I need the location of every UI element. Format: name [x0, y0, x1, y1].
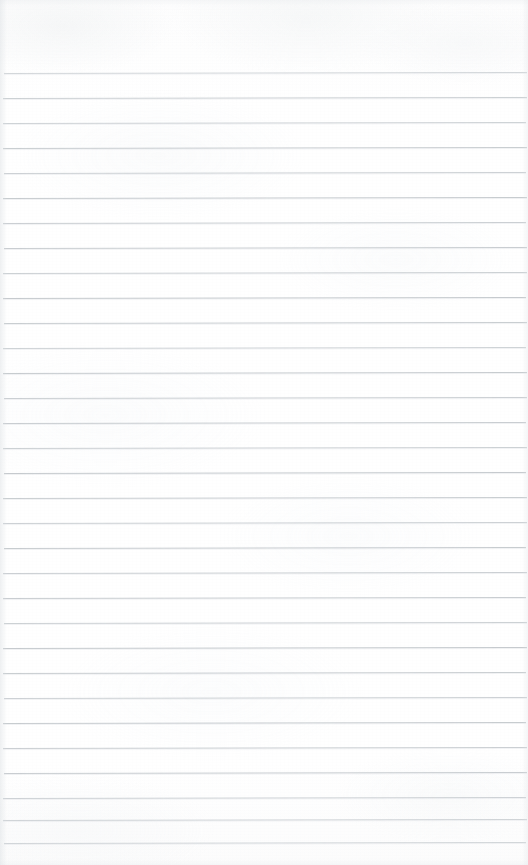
paper-background [0, 0, 528, 865]
notebook-page [0, 0, 528, 865]
